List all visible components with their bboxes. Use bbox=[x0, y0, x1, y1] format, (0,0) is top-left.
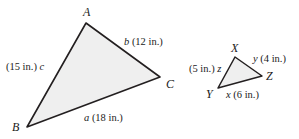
vertex-label-x: X bbox=[231, 42, 238, 54]
side-c-measure: (15 in.) bbox=[6, 61, 37, 72]
side-label-b: b (12 in.) bbox=[124, 37, 163, 48]
vertex-label-c: C bbox=[166, 78, 174, 90]
side-label-z: (5 in.) z bbox=[189, 64, 221, 75]
vertex-label-y: Y bbox=[206, 88, 213, 100]
vertex-label-b: B bbox=[12, 121, 19, 133]
triangles-svg bbox=[0, 0, 299, 139]
side-b-variable: b bbox=[124, 36, 129, 47]
geometry-figure: A B C b (12 in.) (15 in.) c a (18 in.) X… bbox=[0, 0, 299, 139]
side-label-y: y (4 in.) bbox=[253, 54, 286, 65]
side-y-measure: (4 in.) bbox=[260, 53, 286, 64]
side-y-variable: y bbox=[253, 53, 258, 64]
side-z-measure: (5 in.) bbox=[189, 63, 215, 74]
vertex-label-a: A bbox=[83, 6, 90, 18]
side-a-measure: (18 in.) bbox=[92, 112, 123, 123]
side-a-variable: a bbox=[84, 112, 89, 123]
vertex-label-z: Z bbox=[266, 70, 273, 82]
side-x-measure: (6 in.) bbox=[233, 89, 259, 100]
side-label-a: a (18 in.) bbox=[84, 113, 123, 124]
side-c-variable: c bbox=[40, 61, 45, 72]
side-label-x: x (6 in.) bbox=[226, 90, 259, 101]
side-label-c: (15 in.) c bbox=[6, 62, 44, 73]
side-x-variable: x bbox=[226, 89, 231, 100]
side-b-measure: (12 in.) bbox=[132, 36, 163, 47]
side-z-variable: z bbox=[217, 63, 221, 74]
